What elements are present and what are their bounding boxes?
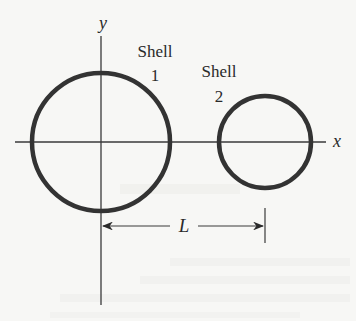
x-axis-label: x	[333, 132, 341, 150]
shell-2-label-number: 2	[215, 88, 224, 105]
diagram-canvas	[0, 0, 356, 321]
shells-diagram: y x Shell 1 Shell 2 L	[0, 0, 356, 321]
bleed-through-texture	[50, 184, 350, 318]
y-axis-label: y	[99, 14, 107, 32]
shell-1-label-word: Shell	[138, 43, 173, 60]
distance-label-L: L	[179, 216, 190, 235]
shell-2-label-word: Shell	[202, 63, 237, 80]
shell-1-label-number: 1	[151, 67, 160, 84]
